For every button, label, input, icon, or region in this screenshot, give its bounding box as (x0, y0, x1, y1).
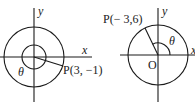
left-point-label: P(3, −1) (63, 64, 102, 76)
left-y-axis-label: y (38, 5, 43, 17)
right-x-axis-label: x (191, 44, 195, 56)
left-terminal-ray (34, 57, 63, 66)
left-figure (0, 8, 92, 102)
right-terminal-ray (145, 28, 158, 55)
left-x-axis-label: x (82, 44, 87, 56)
right-origin-label: O (148, 59, 157, 71)
right-y-axis-label: y (162, 5, 167, 17)
right-point-label: P(− 3,6) (103, 13, 142, 25)
right-angle-label: θ (169, 35, 175, 47)
left-angle-label: θ (18, 66, 24, 78)
